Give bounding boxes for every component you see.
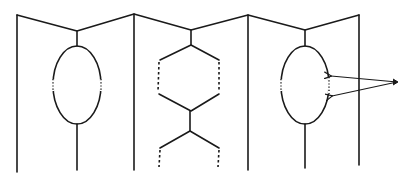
arrow-lower — [332, 82, 397, 96]
arrow-upper — [331, 76, 397, 82]
hexagon-chain-middle — [158, 30, 219, 167]
folded-sheet-diagram — [0, 0, 420, 181]
pointer-arrows — [331, 76, 398, 96]
dashed-side-left — [158, 62, 159, 92]
dashed-tail-right — [218, 150, 219, 167]
ellipse-loop-left — [53, 31, 101, 170]
zigzag-top-edge — [17, 14, 359, 31]
fold-walls — [17, 14, 359, 172]
dashed-tail-left — [159, 150, 160, 167]
ellipse-loop-right — [281, 30, 329, 168]
